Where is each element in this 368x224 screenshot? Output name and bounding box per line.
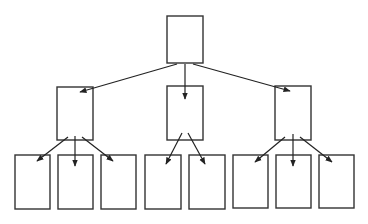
tree-node-mid-left bbox=[57, 87, 93, 140]
tree-node-root bbox=[167, 16, 203, 63]
tree-diagram bbox=[0, 0, 368, 224]
tree-node-leaf-4 bbox=[145, 155, 181, 209]
arrow-edge-root-to-mid-right bbox=[193, 64, 290, 91]
tree-node-leaf-6 bbox=[233, 155, 268, 208]
tree-node-leaf-5 bbox=[189, 155, 225, 209]
tree-node-leaf-3 bbox=[101, 155, 136, 209]
tree-node-leaf-8 bbox=[319, 155, 354, 208]
arrow-edge-root-to-mid-left bbox=[80, 64, 177, 92]
nodes-layer bbox=[15, 16, 354, 209]
tree-node-mid-right bbox=[275, 86, 311, 140]
tree-node-leaf-1 bbox=[15, 155, 50, 209]
